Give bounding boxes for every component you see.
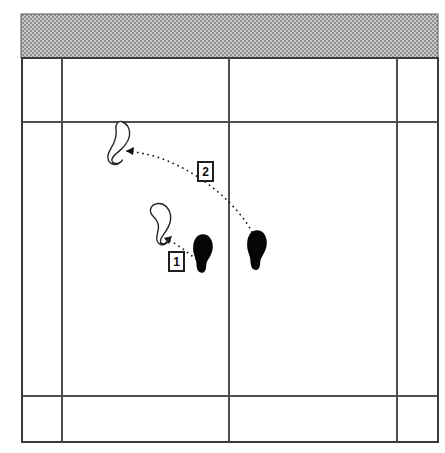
outline-footprint-upper: [108, 121, 130, 164]
footstep-diagram: 2 1: [0, 0, 445, 453]
grid-outer-border: [22, 58, 438, 442]
movement-path-2: [127, 151, 252, 232]
diagram-canvas: 2 1: [0, 0, 445, 453]
solid-footprint-right: [247, 230, 267, 270]
top-shaded-band: [21, 14, 438, 58]
step-label-2: 2: [202, 165, 209, 179]
solid-footprint-left: [193, 234, 213, 273]
step-label-1: 1: [173, 255, 180, 269]
movement-path-2-arrowhead: [126, 147, 134, 155]
